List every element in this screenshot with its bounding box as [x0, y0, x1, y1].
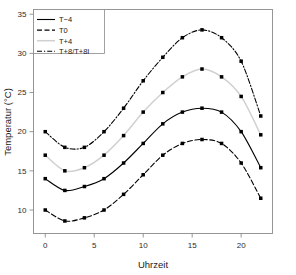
data-point [259, 114, 263, 118]
data-point [220, 110, 224, 114]
y-tick-label: 20 [18, 127, 27, 136]
data-point [259, 197, 263, 201]
data-point [161, 56, 165, 60]
data-point [239, 59, 243, 63]
data-point [141, 110, 145, 114]
data-point [122, 106, 126, 110]
data-point [200, 67, 204, 71]
data-point [259, 166, 263, 170]
data-point [200, 28, 204, 32]
data-point [102, 130, 106, 134]
x-tick-label: 0 [43, 241, 48, 250]
data-point [44, 177, 48, 181]
data-point [63, 219, 66, 223]
data-point [220, 36, 224, 40]
legend: T−4T0T+4T+8/T+8I [34, 10, 105, 57]
x-axis-title: Uhrzeit [138, 259, 168, 270]
data-point [83, 166, 87, 170]
legend-label: T−4 [59, 15, 72, 24]
data-point [220, 75, 224, 79]
data-point [181, 75, 185, 79]
data-point [181, 110, 185, 114]
data-point [161, 91, 165, 95]
x-tick-label: 5 [92, 241, 97, 250]
data-point [83, 146, 87, 150]
y-tick-label: 15 [18, 167, 27, 176]
x-tick-label: 20 [237, 241, 246, 250]
data-point [181, 36, 185, 40]
data-point [161, 153, 165, 157]
y-axis-title: Temperatur (°C) [2, 88, 13, 156]
data-point [63, 189, 66, 193]
legend-label: T+4 [59, 37, 72, 46]
data-point [122, 134, 126, 138]
data-point [239, 130, 243, 134]
data-point [102, 177, 106, 181]
data-point [200, 106, 204, 110]
data-point [44, 153, 48, 157]
data-point [122, 161, 126, 165]
data-point [141, 173, 145, 177]
data-point [239, 161, 243, 165]
y-tick-label: 25 [18, 88, 27, 97]
legend-label: T0 [59, 26, 68, 35]
data-point [239, 95, 243, 99]
x-tick-label: 10 [139, 241, 148, 250]
data-point [161, 122, 165, 126]
data-point [44, 208, 48, 212]
data-point [141, 142, 145, 146]
legend-label: T+8/T+8I [59, 47, 89, 56]
y-tick-label: 35 [18, 10, 27, 19]
data-point [83, 216, 87, 220]
data-point [44, 130, 48, 134]
temperature-line-chart: 101520253035 05101520 Uhrzeit Temperatur… [0, 0, 296, 275]
data-point [63, 146, 66, 150]
data-point [102, 208, 106, 212]
data-point [200, 138, 204, 142]
y-tick-label: 10 [18, 206, 27, 215]
data-point [83, 185, 87, 189]
y-tick-label: 30 [18, 49, 27, 58]
data-point [63, 169, 66, 173]
x-tick-label: 15 [188, 241, 197, 250]
data-point [181, 142, 185, 146]
data-point [141, 79, 145, 83]
data-point [102, 153, 106, 157]
data-point [220, 142, 224, 146]
data-point [122, 193, 126, 197]
data-point [259, 133, 263, 137]
